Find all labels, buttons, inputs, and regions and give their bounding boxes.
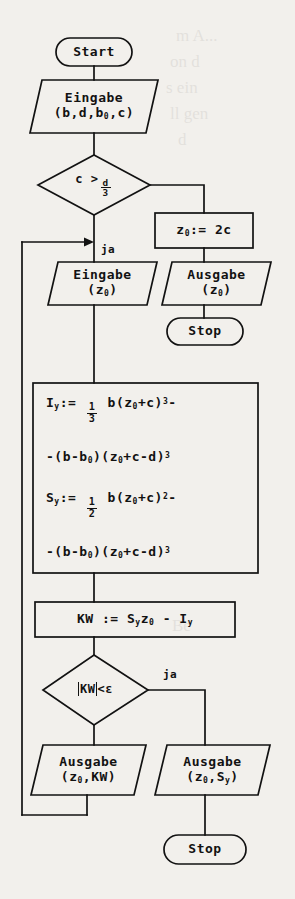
formula-row-3: Sy:= 12 b(z0+c)2- — [46, 491, 177, 519]
formula-row-1: Iy:= 13 b(z0+c)3- — [46, 396, 177, 424]
output-kw-line2: (z0,KW) — [61, 770, 116, 786]
output-sy-node: Ausgabe (z0,Sy) — [155, 745, 270, 795]
input-params-node: Eingabe (b,d,b0,c) — [30, 80, 158, 133]
start-top-node: Start — [56, 38, 132, 66]
assign-kw-expression: KW := Syz0 - Iy — [77, 612, 193, 628]
input-z0-line2: (z0) — [87, 283, 117, 299]
assign-z0-expression: z0:= 2c — [176, 223, 231, 239]
start-top-label: Start — [73, 45, 115, 60]
edge-label-ja-top: ja — [101, 243, 115, 256]
stop-bottom-node: Stop — [164, 835, 246, 864]
formula-box-node: Iy:= 13 b(z0+c)3- -(b-b0)(z0+c-d)3 Sy:= … — [33, 383, 258, 573]
output-z0-node: Ausgabe (z0) — [162, 262, 271, 305]
output-sy-line1: Ausgabe — [183, 755, 241, 770]
input-params-line2: (b,d,b0,c) — [54, 106, 134, 122]
output-z0-line1: Ausgabe — [187, 268, 245, 283]
output-z0-line2: (z0) — [201, 283, 231, 299]
assign-kw-node: KW := Syz0 - Iy — [35, 602, 235, 637]
output-kw-node: Ausgabe (z0,KW) — [31, 745, 146, 795]
formula-row-4: -(b-b0)(z0+c-d)3 — [46, 545, 170, 561]
input-params-line1: Eingabe — [65, 91, 123, 106]
stop-bottom-label: Stop — [188, 842, 221, 857]
loop-arrowhead — [84, 238, 94, 247]
stop-right-label: Stop — [188, 324, 221, 339]
flowchart-sheet: m A... on d s ein ll gen d Be — [0, 0, 295, 899]
input-z0-line1: Eingabe — [73, 268, 131, 283]
decision-kw-expression: KW<ε — [78, 683, 113, 697]
input-z0-node: Eingabe (z0) — [48, 262, 157, 305]
decision-c-node: c >d3 — [38, 165, 150, 205]
assign-z0-node: z0:= 2c — [155, 213, 253, 248]
output-sy-line2: (z0,Sy) — [186, 770, 238, 786]
stop-right-node: Stop — [167, 318, 243, 345]
formula-row-2: -(b-b0)(z0+c-d)3 — [46, 450, 170, 466]
output-kw-line1: Ausgabe — [59, 755, 117, 770]
decision-kw-node: KW<ε — [43, 672, 148, 708]
edge-label-ja-bottom: ja — [163, 668, 177, 681]
decision-c-expression: c >d3 — [75, 173, 112, 198]
